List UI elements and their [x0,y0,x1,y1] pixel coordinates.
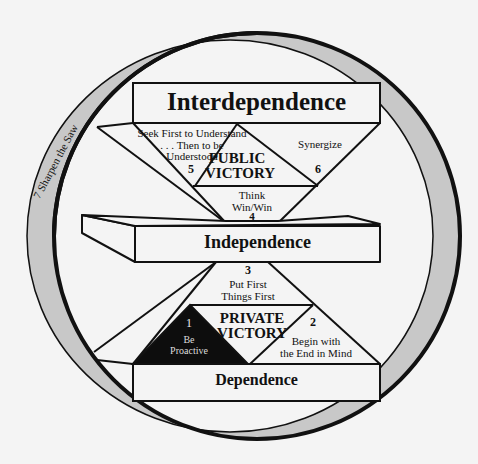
habit-3-label: Put First Things First [210,279,286,302]
habit-5-label: Seek First to Understand . . . Then to b… [137,128,247,163]
habit-5-number: 5 [185,163,197,176]
habit-6-number: 6 [312,163,324,176]
habit-6-label: Synergize [295,139,345,151]
interdependence-label: Interdependence [133,89,380,115]
independence-slab-top [82,215,380,226]
habit-4-number: 4 [246,211,258,223]
independence-label: Independence [135,233,380,252]
dependence-label: Dependence [133,372,380,389]
habit-1-number: 1 [183,317,195,330]
habit-2-number: 2 [307,316,319,329]
habit-3-number: 3 [242,264,254,277]
habit-1-label: Be Proactive [160,335,218,356]
habit-2-label: Begin with the End in Mind [276,336,356,359]
